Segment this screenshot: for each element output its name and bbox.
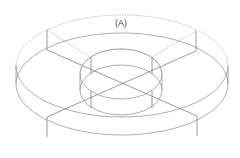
outer-top-front-edge (16, 66, 228, 117)
inner-bottom-back-edge (80, 65, 162, 90)
label-a: (A) (115, 18, 127, 28)
outer-bottom-front-edge (16, 84, 228, 135)
inner-bottom-front-edge (80, 90, 162, 115)
cut-line-back-right-dashed (152, 31, 196, 57)
cut-line-diagonal-2 (47, 51, 196, 117)
ring-diagram: (A) (0, 0, 240, 158)
cut-line-diagonal-1 (47, 50, 197, 116)
